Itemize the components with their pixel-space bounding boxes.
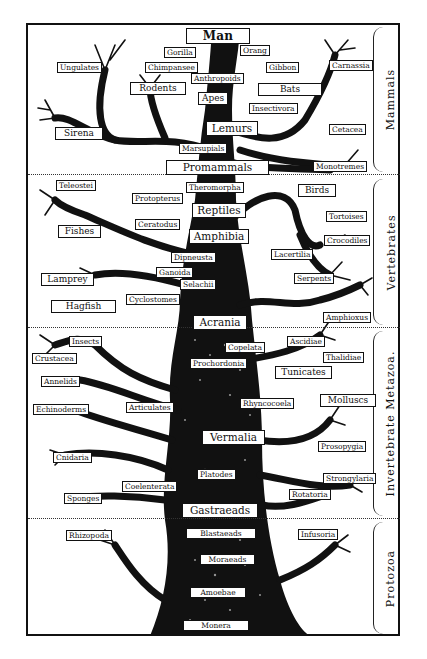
label-rotatoria: Rotatoria [289,489,331,500]
label-crocodiles: Crocodiles [324,235,370,246]
label-hagfish: Hagfish [51,300,116,313]
section-label-invertebrate-metazoa: Invertebrate Metazoa. [382,331,400,516]
label-ganoida: Ganoida [156,267,193,278]
label-insects: Insects [69,336,102,347]
label-monera: Monera [183,620,249,631]
label-molluscs: Molluscs [320,394,376,407]
label-prosopygia: Prosopygia [318,441,366,452]
label-articulates: Articulates [126,402,174,413]
label-promammals: Promammals [166,160,269,175]
label-insectivora: Insectivora [249,103,298,114]
label-marsupials: Marsupials [179,143,227,154]
label-ungulates: Ungulates [57,62,102,73]
label-carnassia: Carnassia [329,60,373,71]
label-thalidiae: Thalidiae [323,352,364,363]
label-rhyncocoela: Rhyncocoela [240,398,294,409]
section-label-mammals: Mammals [382,27,400,172]
section-label-vertebrates: Vertebrates [382,179,400,325]
label-theromorpha: Theromorpha [186,182,244,193]
label-lacertilia: Lacertilia [271,249,313,260]
label-fishes: Fishes [58,225,101,238]
label-birds: Birds [298,184,336,197]
label-gorilla: Gorilla [164,47,196,58]
label-sponges: Sponges [64,493,102,504]
label-dipneusta: Dipneusta [171,252,216,263]
label-sirena: Sirena [55,127,103,140]
label-lamprey: Lamprey [41,273,94,286]
label-crustacea: Crustacea [32,353,77,364]
label-apes: Apes [198,92,228,105]
label-prochordonia: Prochordonia [190,358,247,369]
label-amoebae: Amoebae [190,587,246,598]
label-tortoises: Tortoises [326,211,367,222]
divider-invertebrates-protozoa [28,518,400,519]
label-protopterus: Protopterus [132,193,183,204]
label-acrania: Acrania [193,315,247,330]
label-bats: Bats [258,83,322,96]
label-infusoria: Infusoria [298,529,338,540]
label-reptiles: Reptiles [192,203,246,218]
label-teleostei: Teleostei [56,180,96,191]
label-strongylaria: Strongylaria [323,473,376,484]
label-cnidaria: Cnidaria [53,452,92,463]
label-man: Man [186,28,250,44]
label-gibbon: Gibbon [266,62,299,73]
label-ascidiae: Ascidiae [287,336,325,347]
label-echinoderms: Echinoderms [33,404,89,415]
label-cyclostomes: Cyclostomes [126,294,180,305]
section-label-protozoa: Protozoa [382,522,400,634]
label-rhizopoda: Rhizopoda [66,530,112,541]
label-selachii: Selachii [180,279,216,290]
label-cetacea: Cetacea [329,124,366,135]
label-lemurs: Lemurs [206,121,258,136]
label-amphioxus: Amphioxus [323,312,371,323]
label-anthropoids: Anthropoids [191,73,244,84]
label-rodents: Rodents [130,82,186,95]
label-copelata: Copelata [225,342,265,353]
label-ceratodus: Ceratodus [135,219,180,230]
label-monotremes: Monotremes [313,161,367,172]
label-annelids: Annelids [41,376,80,387]
label-tunicates: Tunicates [275,366,332,379]
label-orang: Orang [240,45,270,56]
label-gastraeads: Gastraeads [182,503,258,518]
label-coelenterata: Coelenterata [122,481,177,492]
label-moraeads: Moraeads [200,554,255,565]
label-amphibia: Amphibia [189,229,249,244]
label-serpents: Serpents [294,273,334,284]
label-vermalia: Vermalia [202,430,265,445]
label-chimpanzee: Chimpansee [145,62,198,73]
label-platodes: Platodes [197,469,236,480]
label-blastaeads: Blastaeads [186,528,256,539]
